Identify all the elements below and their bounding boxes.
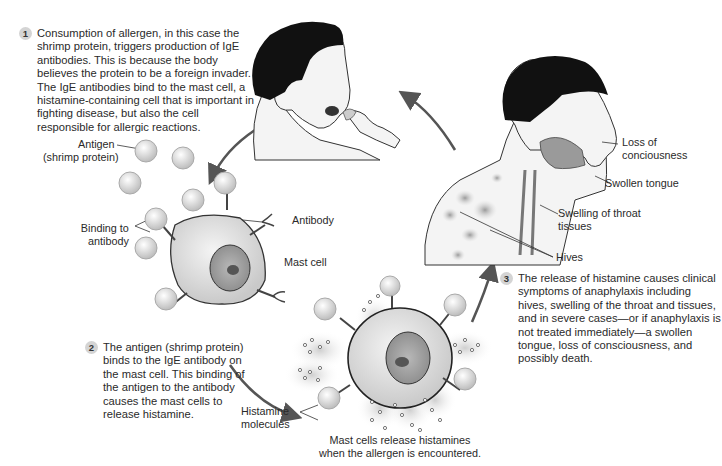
- man-anaphylaxis-illustration: [425, 56, 616, 265]
- step-1: 1 Consumption of allergen, in this case …: [19, 27, 259, 134]
- mast-cell-binding: [145, 172, 285, 310]
- mast-cell-releasing: [284, 276, 493, 432]
- arrow-top-to-mast-cell: [212, 130, 255, 178]
- step-number-badge: 1: [19, 27, 32, 40]
- label-histamine-molecules: Histamine molecules: [241, 405, 290, 430]
- arrow-symptoms-to-top: [405, 95, 455, 150]
- step-2: 2 The antigen (shrimp protein) binds to …: [85, 341, 255, 421]
- step-1-text: Consumption of allergen, in this case th…: [37, 27, 259, 134]
- caption: Mast cells release histamines when the a…: [300, 434, 500, 459]
- arrow-release-to-symptoms: [472, 268, 492, 322]
- label-swollen-tongue: Swollen tongue: [605, 177, 679, 190]
- step-number-badge: 3: [500, 272, 513, 285]
- label-hives: Hives: [556, 251, 583, 264]
- label-swelling-throat: Swelling of throat tissues: [558, 207, 641, 232]
- label-loss-of-consciousness: Loss of conciousness: [622, 136, 687, 161]
- step-3-text: The release of histamine causes clinical…: [518, 272, 722, 366]
- step-2-text: The antigen (shrimp protein) binds to th…: [103, 341, 255, 421]
- label-binding-to-antibody: Binding to antibody: [80, 222, 129, 247]
- man-eating-shrimp-illustration: [252, 22, 400, 160]
- label-antigen: Antigen (shrimp protein): [78, 138, 119, 163]
- label-antibody: Antibody: [292, 214, 334, 227]
- label-mast-cell: Mast cell: [284, 256, 327, 269]
- step-3: 3 The release of histamine causes clinic…: [500, 272, 722, 366]
- step-number-badge: 2: [85, 341, 98, 354]
